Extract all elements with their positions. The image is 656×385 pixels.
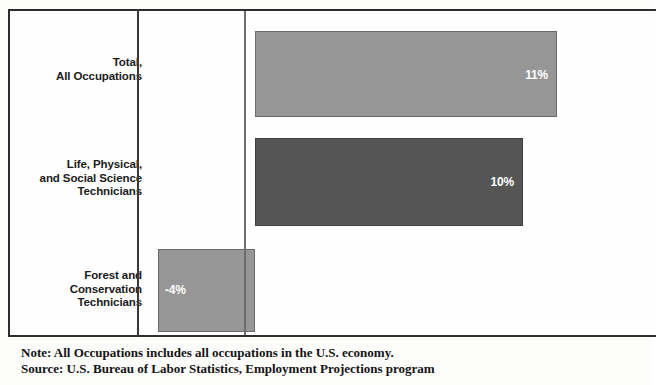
category-label-line: Technicians <box>20 296 142 310</box>
category-label-total-all-occupations: Total, All Occupations <box>20 56 142 83</box>
chart-frame: Total, All Occupations Life, Physical, a… <box>8 9 656 337</box>
zero-axis-line <box>244 11 246 335</box>
bar-value-label: 11% <box>525 68 548 82</box>
category-label-line: Forest and <box>20 269 142 283</box>
category-label-line: All Occupations <box>20 70 142 84</box>
category-label-line: Life, Physical, <box>20 158 142 172</box>
footnotes: Note: All Occupations includes all occup… <box>21 345 621 377</box>
category-label-forest-conservation-technicians: Forest and Conservation Technicians <box>20 269 142 310</box>
category-label-line: Technicians <box>20 185 142 199</box>
label-column-divider <box>137 9 139 337</box>
bar-value-label: -4% <box>165 283 186 297</box>
category-label-line: and Social Science <box>20 172 142 186</box>
footnote-note: Note: All Occupations includes all occup… <box>21 345 621 361</box>
bar-value-label: 10% <box>491 175 514 189</box>
bar-forest-conservation-technicians: -4% <box>158 249 255 332</box>
category-label-life-physical-social-science-technicians: Life, Physical, and Social Science Techn… <box>20 158 142 199</box>
category-label-line: Total, <box>20 56 142 70</box>
footnote-source: Source: U.S. Bureau of Labor Statistics,… <box>21 361 621 377</box>
bar-total-all-occupations: 11% <box>255 31 557 117</box>
bar-life-physical-social-science-technicians: 10% <box>255 138 523 226</box>
category-label-line: Conservation <box>20 283 142 297</box>
